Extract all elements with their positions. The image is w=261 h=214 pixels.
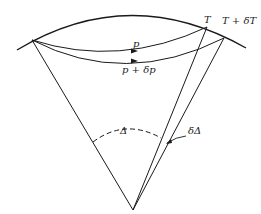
label-d-delta: δΔ xyxy=(188,125,201,136)
radius-source xyxy=(32,40,133,210)
label-p: p xyxy=(133,38,140,49)
label-delta: Δ xyxy=(119,125,127,136)
label-T-plus-dT: T + δT xyxy=(222,15,257,26)
radius-T xyxy=(133,27,207,210)
label-p-plus-dp: p + δp xyxy=(122,64,156,75)
arrow-icon xyxy=(166,139,172,144)
ray-path-p-plus-dp xyxy=(32,38,224,64)
label-T: T xyxy=(204,14,212,25)
ray-geometry-diagram: T T + δT p p + δp Δ δΔ xyxy=(0,0,261,214)
ray-path-p xyxy=(32,27,207,51)
